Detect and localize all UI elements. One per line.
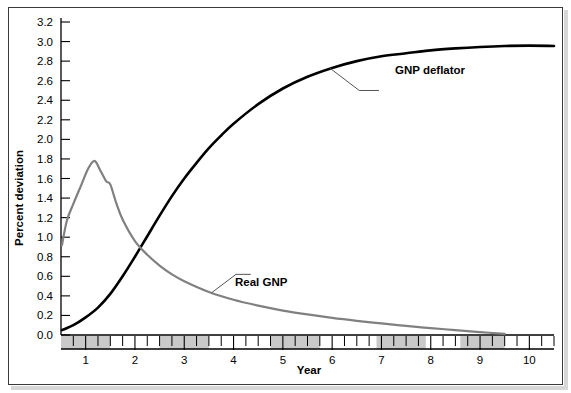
line-chart: 0.00.20.40.60.81.01.21.41.61.82.02.22.42…	[9, 8, 561, 383]
figure-shadow-bottom	[11, 386, 568, 390]
x-tick-label-3: 3	[181, 354, 187, 366]
x-tick-label-9: 9	[477, 354, 483, 366]
y-tick-label-1.6: 1.6	[37, 173, 53, 185]
axes-group	[61, 18, 554, 349]
y-tick-label-0.4: 0.4	[37, 290, 54, 302]
y-tick-label-1.8: 1.8	[37, 153, 53, 165]
data-series-group	[62, 46, 554, 334]
x-tick-label-2: 2	[132, 354, 138, 366]
y-tick-label-2.0: 2.0	[37, 133, 53, 145]
y-tick-label-3.2: 3.2	[37, 16, 53, 28]
series-line-gnp-deflator	[62, 46, 554, 330]
figure-shadow-right	[564, 10, 568, 388]
y-tick-label-0.8: 0.8	[37, 251, 53, 263]
x-tick-label-4: 4	[230, 354, 237, 366]
y-tick-label-3.0: 3.0	[37, 36, 53, 48]
annotation-real-gnp: Real GNP	[211, 274, 287, 293]
y-tick-label-0.6: 0.6	[37, 270, 53, 282]
y-tick-label-0.2: 0.2	[37, 309, 53, 321]
y-tick-label-0.0: 0.0	[37, 329, 53, 341]
recession-band-5	[460, 336, 504, 349]
y-tick-label-2.6: 2.6	[37, 75, 53, 87]
x-tick-label-7: 7	[378, 354, 384, 366]
x-tick-label-8: 8	[428, 354, 434, 366]
y-tick-label-2.2: 2.2	[37, 114, 53, 126]
series-line-real-gnp	[62, 161, 505, 334]
figure-frame: 0.00.20.40.60.81.01.21.41.61.82.02.22.42…	[8, 7, 563, 385]
y-axis-ticks: 0.00.20.40.60.81.01.21.41.61.82.02.22.42…	[37, 16, 70, 341]
x-tick-label-6: 6	[329, 354, 335, 366]
y-tick-label-1.4: 1.4	[37, 192, 54, 204]
x-tick-label-10: 10	[523, 354, 536, 366]
figure-container: 0.00.20.40.60.81.01.21.41.61.82.02.22.42…	[0, 0, 571, 393]
y-tick-label-2.8: 2.8	[37, 55, 53, 67]
x-axis-title: Year	[297, 364, 322, 376]
real-gnp-label: Real GNP	[235, 276, 288, 288]
annotation-gnp-deflator: GNP deflator	[330, 64, 466, 90]
x-tick-label-5: 5	[280, 354, 286, 366]
y-tick-label-2.4: 2.4	[37, 94, 54, 106]
x-tick-label-1: 1	[82, 354, 88, 366]
y-tick-label-1.2: 1.2	[37, 212, 53, 224]
gnp-deflator-label: GNP deflator	[395, 64, 466, 76]
y-tick-label-1.0: 1.0	[37, 231, 53, 243]
leader-line-deflator	[330, 68, 379, 90]
y-axis-title: Percent deviation	[13, 150, 25, 246]
